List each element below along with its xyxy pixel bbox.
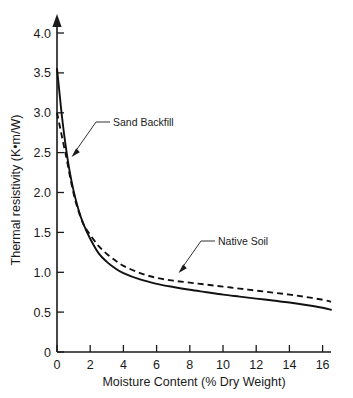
x-tick-label: 0 xyxy=(54,358,61,372)
series-annotation-label: Native Soil xyxy=(218,235,268,247)
arrowhead-icon xyxy=(179,264,187,273)
x-tick-label: 10 xyxy=(216,358,230,372)
chart-svg: 0 0.5 1.0 1.5 2.0 2.5 3.0 3.5 4.0 0 2 4 … xyxy=(0,0,353,398)
y-tick-label: 2.5 xyxy=(34,146,51,160)
series-line-native-soil xyxy=(57,113,331,302)
x-tick-label: 14 xyxy=(282,358,296,372)
y-tick-group: 0 0.5 1.0 1.5 2.0 2.5 3.0 3.5 4.0 xyxy=(34,27,64,360)
x-tick-group: 0 2 4 6 8 10 12 14 16 xyxy=(54,345,330,372)
leader-line xyxy=(75,122,110,152)
y-tick-label: 4.0 xyxy=(34,27,51,41)
y-axis-arrow-icon xyxy=(52,14,61,27)
leader-line xyxy=(182,241,215,268)
x-tick-label: 6 xyxy=(153,358,160,372)
x-tick-label: 12 xyxy=(249,358,263,372)
y-tick-label: 1.5 xyxy=(34,226,51,240)
y-tick-label: 2.0 xyxy=(34,186,51,200)
series-annotation-label: Sand Backfill xyxy=(113,116,174,128)
y-tick-label: 3.0 xyxy=(34,106,51,120)
arrowhead-icon xyxy=(72,148,80,157)
y-tick-label: 0.5 xyxy=(34,306,51,320)
series-line-sand-backfill xyxy=(57,69,331,310)
annotation-native-soil: Native Soil xyxy=(179,235,269,273)
x-tick-label: 8 xyxy=(186,358,193,372)
x-tick-label: 16 xyxy=(316,358,330,372)
x-axis-title: Moisture Content (% Dry Weight) xyxy=(102,375,285,389)
y-tick-label: 3.5 xyxy=(34,66,51,80)
y-tick-label: 1.0 xyxy=(34,266,51,280)
annotation-sand-backfill: Sand Backfill xyxy=(72,116,174,157)
x-tick-label: 2 xyxy=(87,358,94,372)
plot-series-group xyxy=(57,69,331,310)
y-axis-title: Thermal resistivity (K•m/W) xyxy=(9,115,23,266)
thermal-resistivity-chart: 0 0.5 1.0 1.5 2.0 2.5 3.0 3.5 4.0 0 2 4 … xyxy=(0,0,353,398)
x-tick-label: 4 xyxy=(120,358,127,372)
y-axis xyxy=(52,14,61,352)
y-tick-label: 0 xyxy=(44,346,51,360)
